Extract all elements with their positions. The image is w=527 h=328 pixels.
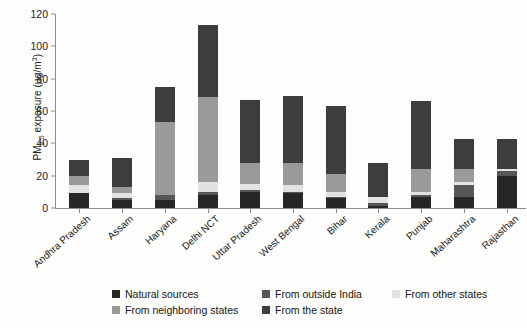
y-tick-mark [51, 208, 55, 209]
x-tick-label: Punjab [404, 213, 435, 242]
y-tick-mark [51, 46, 55, 47]
x-tick-label: Kerala [363, 213, 392, 241]
bar-uttar-pradesh[interactable] [240, 100, 260, 208]
bar-segment [198, 182, 218, 192]
bar-segment [411, 101, 431, 169]
bar-assam[interactable] [112, 158, 132, 208]
legend-swatch-icon [112, 290, 120, 298]
bar-segment [240, 192, 260, 208]
bar-segment [240, 163, 260, 184]
bar-segment [155, 200, 175, 208]
x-tick-mark [122, 209, 123, 213]
chart-figure: PM2.5 exposure (µg/m3) 020406080100120 A… [0, 0, 527, 328]
x-tick-mark [79, 209, 80, 213]
x-tick-label: Rajasthan [479, 213, 520, 251]
bar-segment [326, 106, 346, 174]
bar-segment [497, 139, 517, 170]
legend-label: From neighboring states [125, 304, 238, 316]
bar-maharashtra[interactable] [454, 138, 474, 208]
bar-segment [112, 158, 132, 187]
y-tick-mark [51, 143, 55, 144]
y-axis-line [55, 14, 56, 209]
y-axis-title-superscript: 3 [31, 57, 38, 61]
bar-segment [198, 195, 218, 208]
x-tick-mark [165, 209, 166, 213]
bar-punjab[interactable] [411, 101, 431, 208]
x-tick-label: Delhi NCT [179, 213, 221, 252]
y-axis-title-suffix: ) [32, 54, 43, 57]
legend-swatch-icon [392, 290, 400, 298]
x-tick-label: West Bengal [257, 213, 306, 259]
x-tick-mark [336, 209, 337, 213]
x-tick-mark [208, 209, 209, 213]
bar-bihar[interactable] [326, 106, 346, 208]
plot-area: 020406080100120 Andhra PradeshAssamHarya… [55, 14, 525, 208]
bar-andhra-pradesh[interactable] [69, 160, 89, 209]
bar-segment [368, 163, 388, 197]
bar-segment [454, 169, 474, 182]
bar-segment [326, 174, 346, 192]
x-axis-line [55, 208, 526, 209]
y-tick-mark [51, 175, 55, 176]
bar-segment [112, 200, 132, 208]
legend-item[interactable]: From outside India [262, 288, 392, 300]
bar-segment [283, 193, 303, 208]
bar-segment [69, 185, 89, 193]
chart-legend: Natural sourcesFrom outside IndiaFrom ot… [112, 288, 522, 320]
bar-segment [69, 160, 89, 176]
legend-swatch-icon [112, 306, 120, 314]
x-tick-label: Haryana [143, 213, 178, 246]
legend-swatch-icon [262, 306, 270, 314]
legend-label: From the state [275, 304, 343, 316]
bar-segment [198, 97, 218, 183]
bar-segment [368, 206, 388, 208]
legend-swatch-icon [262, 290, 270, 298]
x-tick-label: Maharashtra [428, 213, 477, 259]
x-tick-label: Bihar [324, 213, 349, 237]
bar-segment [326, 198, 346, 208]
bar-segment [411, 197, 431, 208]
bar-segment [155, 122, 175, 195]
bar-haryana[interactable] [155, 87, 175, 208]
legend-label: Natural sources [125, 288, 199, 300]
x-tick-mark [378, 209, 379, 213]
y-tick-mark [51, 111, 55, 112]
x-tick-mark [421, 209, 422, 213]
x-tick-label: Andhra Pradesh [32, 213, 93, 270]
legend-item[interactable]: From the state [262, 304, 392, 316]
bar-rajasthan[interactable] [497, 138, 517, 208]
bar-segment [69, 193, 89, 208]
legend-row: Natural sourcesFrom outside IndiaFrom ot… [112, 288, 522, 300]
legend-item[interactable]: From neighboring states [112, 304, 262, 316]
bar-segment [283, 163, 303, 186]
legend-label: From other states [405, 288, 487, 300]
bar-segment [240, 100, 260, 163]
x-tick-label: Assam [105, 213, 135, 242]
bar-segment [283, 96, 303, 162]
bar-segment [69, 176, 89, 186]
bar-segment [411, 169, 431, 192]
bar-segment [454, 139, 474, 170]
bar-west-bengal[interactable] [283, 96, 303, 208]
bar-delhi-nct[interactable] [198, 25, 218, 208]
bar-segment [198, 25, 218, 96]
legend-item[interactable]: Natural sources [112, 288, 262, 300]
y-tick-mark [51, 14, 55, 15]
x-tick-mark [250, 209, 251, 213]
bar-segment [454, 185, 474, 196]
x-tick-mark [293, 209, 294, 213]
bar-kerala[interactable] [368, 163, 388, 208]
legend-label: From outside India [275, 288, 362, 300]
y-tick-mark [51, 78, 55, 79]
bar-segment [155, 87, 175, 123]
bar-segment [497, 176, 517, 208]
bar-segment [454, 197, 474, 208]
legend-item[interactable]: From other states [392, 288, 512, 300]
legend-row: From neighboring statesFrom the state [112, 304, 522, 316]
x-tick-mark [464, 209, 465, 213]
x-tick-mark [507, 209, 508, 213]
